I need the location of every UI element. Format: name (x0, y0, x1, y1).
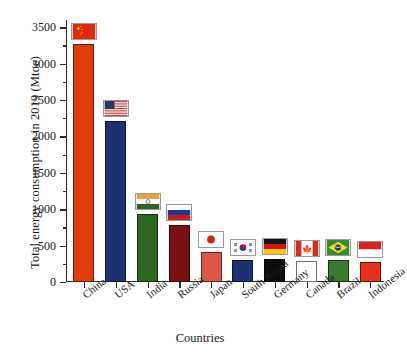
y-tick-major: 0 (60, 282, 66, 283)
flag-canada-icon: 🍁 (294, 240, 320, 257)
y-tick-label: 500 (38, 240, 56, 252)
svg-text:🍁: 🍁 (302, 244, 312, 254)
bar-indonesia (360, 262, 381, 282)
flag-japan-icon (198, 231, 224, 248)
y-tick-minor (63, 118, 67, 119)
bar-usa (105, 121, 126, 282)
y-tick-minor (63, 45, 67, 46)
y-tick-minor (63, 227, 67, 228)
plot-area: 0500100015002000250030003500 ★★★★★🍁 Chin… (66, 20, 384, 282)
x-axis-title: Countries (0, 331, 400, 346)
flag-germany-icon (262, 238, 288, 255)
y-tick-label: 0 (50, 276, 56, 288)
y-tick-label: 3000 (32, 58, 56, 70)
flag-brazil-icon (325, 239, 351, 256)
y-tick-major: 2000 (60, 136, 66, 137)
y-tick-label: 2000 (32, 130, 56, 142)
y-tick-major: 1000 (60, 209, 66, 210)
y-tick-minor (63, 191, 67, 192)
flag-russia-icon (166, 204, 192, 221)
bar-china (73, 44, 94, 282)
flag-india-icon (135, 193, 161, 210)
y-tick-major: 3000 (60, 64, 66, 65)
y-tick-label: 1500 (32, 167, 56, 179)
y-tick-major: 500 (60, 246, 66, 247)
y-tick-label: 2500 (32, 94, 56, 106)
flag-china-icon: ★★★★★ (71, 23, 97, 40)
flag-usa-icon (103, 100, 129, 117)
bar-india (137, 214, 158, 282)
bar-japan (201, 252, 222, 282)
y-tick-label: 3500 (32, 21, 56, 33)
y-tick-major: 1500 (60, 173, 66, 174)
y-tick-major: 2500 (60, 100, 66, 101)
flag-indonesia-icon (357, 241, 383, 258)
y-tick-label: 1000 (32, 203, 56, 215)
y-tick-major: 3500 (60, 27, 66, 28)
y-tick-minor (63, 264, 67, 265)
bar-south-korea (232, 260, 253, 282)
bar-russia (169, 225, 190, 282)
y-axis-line (66, 20, 67, 282)
flag-south-korea-icon (230, 239, 256, 256)
y-tick-minor (63, 82, 67, 83)
y-tick-minor (63, 155, 67, 156)
